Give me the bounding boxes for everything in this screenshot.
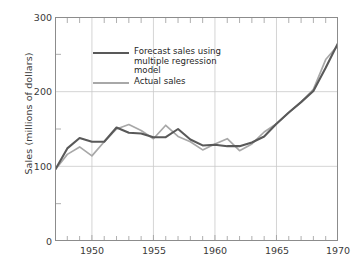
y-tick-200: 200 <box>18 86 52 97</box>
x-tick-1965: 1965 <box>254 245 300 256</box>
legend-label-forecast: Forecast sales using multiple regression… <box>134 47 243 76</box>
y-axis-tick-labels: 300 200 100 0 <box>14 0 52 270</box>
x-tick-1960: 1960 <box>192 245 238 256</box>
legend-label-actual: Actual sales <box>134 77 186 87</box>
legend-item-actual: Actual sales <box>93 77 243 87</box>
y-tick-300: 300 <box>18 12 52 23</box>
legend-item-forecast: Forecast sales using multiple regression… <box>93 47 243 76</box>
x-axis-tick-labels: 1950 1955 1960 1965 1970 <box>0 245 362 261</box>
x-tick-1950: 1950 <box>69 245 115 256</box>
chart-figure: Sales (millions of dollars) 300 200 100 … <box>0 0 362 270</box>
x-tick-1970: 1970 <box>315 245 361 256</box>
y-tick-100: 100 <box>18 161 52 172</box>
legend-swatch-actual-line <box>93 82 129 84</box>
legend: Forecast sales using multiple regression… <box>93 47 243 87</box>
legend-swatch-forecast-line <box>93 52 129 54</box>
x-tick-1955: 1955 <box>131 245 177 256</box>
